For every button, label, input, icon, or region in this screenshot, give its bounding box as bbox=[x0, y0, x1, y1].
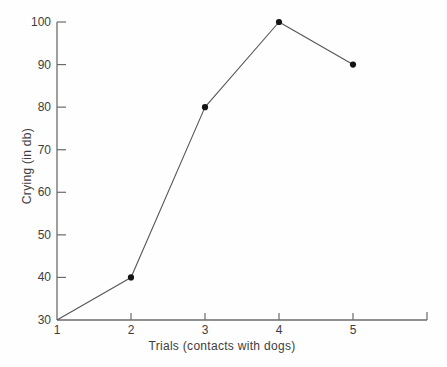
y-tick-label: 50 bbox=[38, 228, 52, 242]
y-tick-label: 80 bbox=[38, 100, 52, 114]
data-point-marker bbox=[350, 61, 356, 67]
y-axis-title: Crying (in db) bbox=[20, 96, 36, 236]
y-tick-label: 70 bbox=[38, 143, 52, 157]
x-axis-title: Trials (contacts with dogs) bbox=[57, 339, 387, 353]
y-tick-label: 100 bbox=[31, 15, 51, 29]
chart-canvas: 3040506070809010012345 bbox=[0, 0, 447, 367]
x-tick-label: 4 bbox=[276, 323, 283, 337]
x-tick-label: 3 bbox=[202, 323, 209, 337]
x-tick-label: 5 bbox=[350, 323, 357, 337]
x-tick-label: 1 bbox=[54, 323, 61, 337]
data-line bbox=[57, 22, 353, 320]
y-tick-label: 90 bbox=[38, 58, 52, 72]
y-tick-label: 40 bbox=[38, 270, 52, 284]
y-tick-label: 30 bbox=[38, 313, 52, 327]
data-point-marker bbox=[128, 274, 134, 280]
x-tick-label: 2 bbox=[128, 323, 135, 337]
y-tick-label: 60 bbox=[38, 185, 52, 199]
data-point-marker bbox=[276, 19, 282, 25]
crying-trials-line-chart-figure: 3040506070809010012345 Trials (contacts … bbox=[0, 0, 447, 367]
data-point-marker bbox=[202, 104, 208, 110]
